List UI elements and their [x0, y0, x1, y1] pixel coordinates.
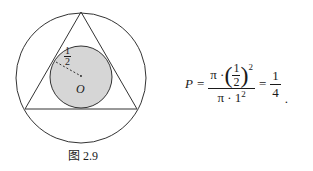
formula-period: . [285, 91, 288, 107]
center-label: O [76, 82, 85, 97]
result-numerator: 1 [270, 68, 281, 85]
formula-equals-1: = [197, 76, 204, 92]
formula-lhs: P [185, 76, 193, 92]
result-denominator: 4 [270, 85, 281, 101]
numerator-exponent: 2 [248, 62, 253, 72]
formula-equals-2: = [259, 76, 266, 92]
half-numerator: 1 [232, 62, 240, 76]
radius-label: 1 2 [64, 46, 71, 67]
result-fraction: 1 4 [270, 68, 281, 101]
left-paren: ( [224, 63, 232, 87]
denominator-text: π · 1 [217, 91, 241, 106]
main-fraction: π · ( 1 2 ) 2 π · 12 [208, 62, 255, 107]
main-numerator: π · ( 1 2 ) 2 [208, 62, 255, 89]
numerator-pi: π · [210, 67, 224, 83]
main-denominator: π · 12 [215, 89, 247, 106]
right-paren: ) [240, 63, 248, 87]
half-fraction: 1 2 [232, 62, 240, 88]
radius-label-denominator: 2 [65, 57, 70, 67]
denominator-exponent: 2 [241, 89, 246, 99]
geometry-figure [0, 0, 170, 145]
probability-formula: P = π · ( 1 2 ) 2 π · 12 = 1 4 . [185, 62, 288, 107]
figure-caption: 图 2.9 [63, 146, 103, 164]
half-denominator: 2 [233, 76, 239, 89]
center-point [80, 75, 82, 77]
